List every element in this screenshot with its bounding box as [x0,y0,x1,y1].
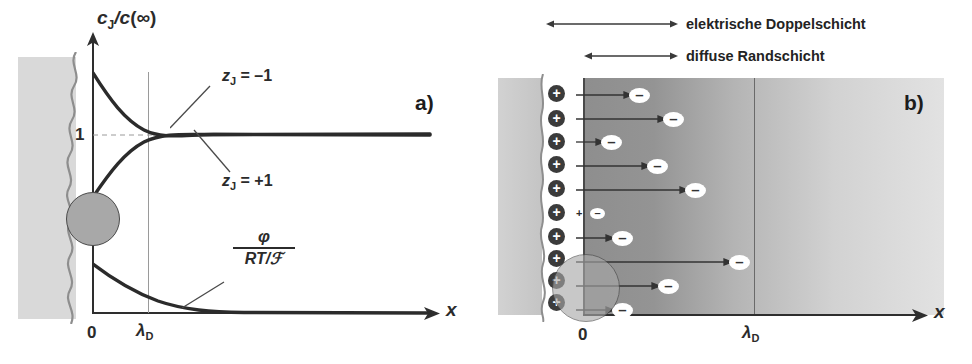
panel-a: cJ/c(∞) 1 0 λD x zJ = –1 zJ = +1 φ RT/ℱ … [0,0,486,364]
mini-minus-glyph: – [594,207,600,219]
annotation-diffuse-layer: diffuse Randschicht [686,48,825,64]
y-axis-label-c1: c [97,7,108,28]
panel-b: elektrische Doppelschicht diffuse Randsc… [486,0,972,364]
ion-minus: – [629,88,650,103]
figure-root: cJ/c(∞) 1 0 λD x zJ = –1 zJ = +1 φ RT/ℱ … [0,0,972,364]
curve-label-cation: zJ = +1 [222,173,273,192]
y-tick-1-a: 1 [75,126,84,143]
minus-glyph: – [669,110,677,127]
minus-glyph: – [607,133,615,150]
lambda-sub-d-b: D [751,332,759,344]
x-tick-0-a: 0 [87,324,96,341]
ion-minus: – [729,255,750,270]
x-axis-label-b: x [934,302,945,321]
x-tick-lambda-a: λD [136,322,153,342]
plus-glyph: + [552,228,560,244]
ion-minus: – [663,112,684,127]
annotation-double-layer: elektrische Doppelschicht [686,16,866,32]
diffuse-layer-arrow [584,50,678,62]
minus-glyph: – [735,253,743,270]
wall-wavy-edge-a [60,52,90,324]
magnifier-circle-b [552,254,620,322]
ion-minus: – [647,159,668,174]
ion-minus: – [685,183,706,198]
minus-glyph: – [618,229,626,246]
ion-minus: – [612,231,633,246]
surface-charge-plus: + [548,228,565,245]
minus-glyph: – [664,277,672,294]
plus-glyph: + [552,110,560,126]
surface-charge-plus: + [548,133,565,150]
potential-denominator: RT/ℱ [233,250,295,268]
curve-label-potential: φ RT/ℱ [233,228,295,268]
curve-label-anion: zJ = –1 [222,68,272,87]
lambda-sub-d-a: D [145,330,153,342]
y-axis-label-a: cJ/c(∞) [97,8,156,31]
minus-glyph: – [653,157,661,174]
surface-charge-plus: + [548,156,565,173]
minus-glyph: – [635,86,643,103]
x-tick-0-b: 0 [578,326,587,343]
mini-minus-ion: – [590,208,605,219]
x-tick-lambda-b: λD [742,324,759,344]
plus-glyph: + [552,180,560,196]
ion-minus: – [658,279,679,294]
leader-line-potential [182,280,242,312]
y-axis-label-c2: c [120,7,131,28]
curve-label-anion-eq: = –1 [236,67,272,84]
minus-glyph: – [618,301,626,318]
y-axis-label-infinity: (∞) [130,7,156,28]
x-axis-arrow-b [910,308,928,323]
mini-plus-glyph: + [576,207,582,219]
plus-glyph: + [552,250,560,266]
mini-plus-charge: + [576,207,582,219]
plus-glyph: + [552,204,560,220]
magnifier-circle-a [66,192,120,246]
curve-label-cation-eq: = +1 [236,172,272,189]
curve-label-cation-z: z [222,172,230,189]
plus-glyph: + [552,85,560,101]
surface-charge-plus: + [548,110,565,127]
curve-label-anion-z: z [222,67,230,84]
fraction-bar [233,247,295,249]
plus-glyph: + [552,133,560,149]
leader-line-anion [170,82,240,132]
x-axis-label-a: x [446,300,457,319]
panel-letter-a: a) [415,92,434,113]
plus-glyph: + [552,156,560,172]
potential-numerator: φ [233,228,295,246]
panel-letter-b: b) [904,92,924,113]
leader-line-cation [190,128,240,176]
surface-charge-plus: + [548,85,565,102]
minus-glyph: – [691,181,699,198]
surface-charge-plus: + [548,180,565,197]
double-layer-arrow [546,18,678,30]
ion-minus: – [601,135,622,150]
surface-charge-plus: + [548,204,565,221]
